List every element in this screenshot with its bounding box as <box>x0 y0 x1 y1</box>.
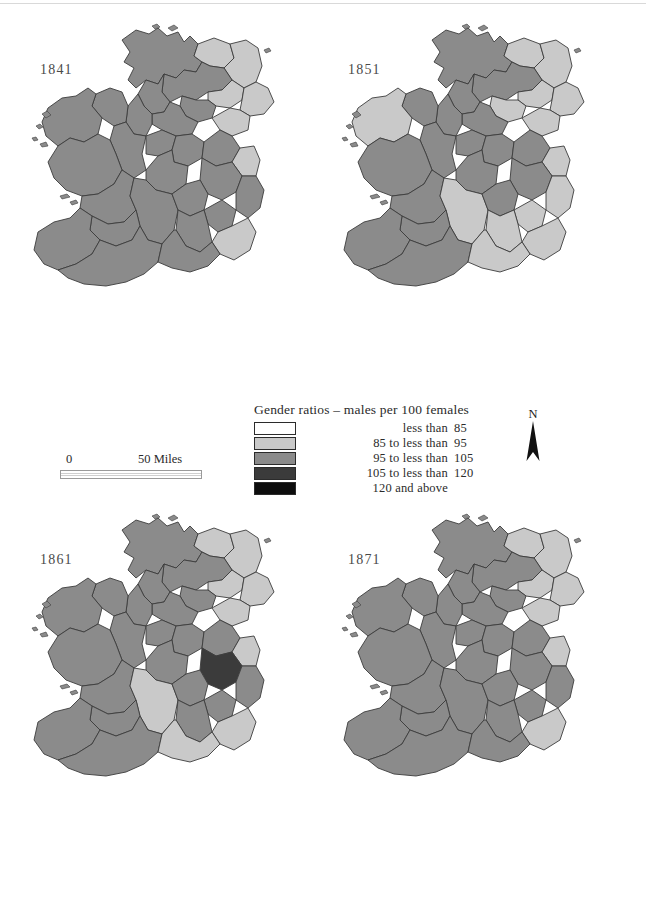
county-wicklow <box>546 666 574 708</box>
scale-bar-max-label: 50 Miles <box>138 452 182 467</box>
county-down <box>550 572 584 606</box>
legend-row: less than85 <box>254 421 484 436</box>
county-wicklow <box>236 176 264 218</box>
offshore-island <box>40 142 48 147</box>
offshore-island <box>380 690 388 695</box>
county-westmeath <box>482 624 514 656</box>
legend-range-label: 105 to less than <box>296 466 454 481</box>
legend-range-value: 105 <box>454 451 484 466</box>
county-westmeath <box>482 134 514 166</box>
offshore-island <box>70 690 78 695</box>
legend-range-label: 120 and above <box>296 481 454 496</box>
county-wicklow <box>236 666 264 708</box>
offshore-island <box>40 632 48 637</box>
legend-range-label: 95 to less than <box>296 451 454 466</box>
map-panel-1861: 1861 <box>18 508 328 898</box>
legend-range-label: 85 to less than <box>296 436 454 451</box>
offshore-island <box>380 200 388 205</box>
ireland-map-svg <box>328 508 638 898</box>
scale-bar-min-label: 0 <box>66 452 72 467</box>
legend-swatch <box>254 452 296 465</box>
offshore-island <box>478 515 488 521</box>
map-panel-1871: 1871 <box>328 508 638 898</box>
legend-row: 85 to less than95 <box>254 436 484 451</box>
scale-bar-labels: 0 50 Miles <box>60 452 210 468</box>
header-rule <box>0 3 646 4</box>
scale-bar-fill <box>61 473 201 476</box>
county-wicklow <box>546 176 574 218</box>
county-down <box>550 82 584 116</box>
legend-range-value: 120 <box>454 466 484 481</box>
offshore-island <box>350 142 358 147</box>
legend-range-value: 85 <box>454 421 484 436</box>
offshore-island <box>370 684 380 689</box>
map-panel-1851: 1851 <box>328 18 638 408</box>
offshore-island <box>342 627 348 631</box>
scale-bar-graphic <box>60 470 202 479</box>
county-westmeath <box>172 624 204 656</box>
offshore-island <box>70 200 78 205</box>
ireland-map-svg <box>18 508 328 898</box>
offshore-island <box>32 627 38 631</box>
north-arrow-icon <box>525 421 541 463</box>
legend-title: Gender ratios – males per 100 females <box>254 402 484 418</box>
offshore-island <box>264 538 271 543</box>
offshore-island <box>346 124 353 129</box>
offshore-island <box>370 194 380 199</box>
legend-row: 105 to less than120 <box>254 466 484 481</box>
scale-bar: 0 50 Miles <box>60 452 210 479</box>
offshore-island <box>60 194 70 199</box>
ireland-map-svg <box>328 18 638 408</box>
legend-swatch <box>254 467 296 480</box>
offshore-island <box>478 25 488 31</box>
offshore-island <box>346 614 353 619</box>
north-arrow: N <box>516 408 550 463</box>
offshore-island <box>36 124 43 129</box>
offshore-island <box>574 538 581 543</box>
county-westmeath <box>172 134 204 166</box>
offshore-island <box>36 614 43 619</box>
legend-range-value: 95 <box>454 436 484 451</box>
north-arrow-label: N <box>516 408 550 420</box>
legend-row: 95 to less than105 <box>254 451 484 466</box>
offshore-island <box>574 48 581 53</box>
legend: Gender ratios – males per 100 females le… <box>254 402 484 496</box>
legend-swatch <box>254 422 296 435</box>
legend-swatch <box>254 482 296 495</box>
offshore-island <box>60 684 70 689</box>
offshore-island <box>350 632 358 637</box>
legend-rows: less than8585 to less than9595 to less t… <box>254 421 484 496</box>
county-down <box>240 572 274 606</box>
offshore-island <box>168 25 178 31</box>
offshore-island <box>32 137 38 141</box>
county-down <box>240 82 274 116</box>
offshore-island <box>168 515 178 521</box>
ireland-map-svg <box>18 18 328 408</box>
legend-row: 120 and above <box>254 481 484 496</box>
offshore-island <box>264 48 271 53</box>
legend-range-label: less than <box>296 421 454 436</box>
offshore-island <box>342 137 348 141</box>
map-panel-1841: 1841 <box>18 18 328 408</box>
legend-swatch <box>254 437 296 450</box>
